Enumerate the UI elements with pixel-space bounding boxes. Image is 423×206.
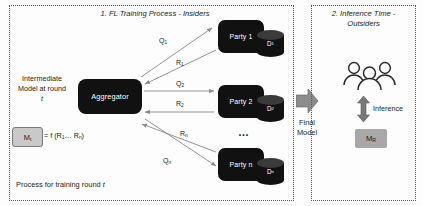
arrow-label-q2: Q2 [176, 80, 184, 87]
arrow-label-r1: R1 [176, 59, 184, 66]
inference-double-arrow-icon [357, 96, 370, 122]
intermediate-model-box: Mt [12, 127, 43, 147]
database-cylinder-icon-n: Dn [257, 158, 284, 185]
arrow-label-r2: R2 [176, 100, 184, 107]
training-round-caption-variable: t [103, 180, 105, 189]
database-cylinder-icon-2: D2 [257, 95, 284, 122]
intermediate-line-3: t [41, 94, 43, 103]
aggregation-formula: = f (R1… Rn) [44, 131, 84, 140]
party-label-n: Party n [230, 161, 253, 168]
dataset-label-n: Dn [257, 158, 284, 185]
intermediate-model-label: Mt [24, 133, 32, 142]
arrow-label-q1: Q1 [159, 37, 167, 44]
party-label-1: Party 1 [230, 33, 253, 40]
final-model-box: MR [355, 129, 387, 148]
aggregator-label: Aggregator [91, 92, 129, 101]
intermediate-line-1: Intermediate [22, 74, 62, 83]
parties-ellipsis: … [232, 126, 256, 138]
database-cylinder-icon-1: D1 [257, 30, 284, 57]
party-label-2: Party 2 [230, 98, 253, 105]
final-model-box-label: MR [366, 134, 376, 143]
intermediate-line-2: Model at round [18, 84, 66, 93]
arrow-label-rn: Rn [180, 130, 188, 137]
inference-label: Inference [373, 104, 403, 113]
intermediate-model-caption: Intermediate Model at round t [9, 74, 75, 104]
dataset-label-2: D2 [257, 95, 284, 122]
aggregator-node: Aggregator [78, 79, 142, 114]
training-round-caption-text: Process for training round [16, 180, 103, 189]
arrow-label-qn: Qn [163, 157, 171, 164]
users-group-icon [342, 60, 397, 90]
dataset-label-1: D1 [257, 30, 284, 57]
panel-right-title: 2. Inference Time - Outsiders [315, 9, 412, 28]
training-round-caption: Process for training round t [16, 180, 105, 189]
diagram-canvas: 1. FL Training Process - Insiders Q1 R1 … [0, 0, 423, 206]
